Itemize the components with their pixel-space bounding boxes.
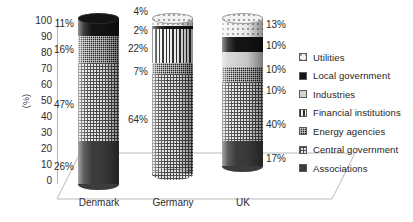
bar-denmark	[78, 18, 119, 184]
energy-agencies-swatch	[299, 127, 307, 135]
segment-germany-energy-agencies	[152, 63, 193, 74]
cylinder-base-germany	[152, 169, 193, 180]
cylinder-base-uk	[222, 161, 263, 172]
segment-uk-industries	[222, 52, 263, 67]
utilities-swatch	[299, 53, 307, 61]
legend-item-financial-institutions[interactable]: Financial institutions	[299, 104, 413, 123]
chart-legend: Utilities Local government Industries Fi…	[299, 48, 413, 178]
value-label-uk-industries: 10%	[266, 65, 296, 75]
value-label-germany-central-government: 64%	[118, 115, 148, 125]
y-axis-tick-labels: 100 90 80 70 60 50 40 30 20 10 0	[18, 0, 52, 222]
stacked-bar-chart: (%) 100 90 80 70 60 50 40 30 20 10 0 11%…	[0, 0, 413, 222]
local-government-swatch	[299, 72, 307, 80]
value-label-germany-utilities: 4%	[118, 7, 148, 17]
bar-germany	[152, 18, 193, 174]
value-label-uk-central-government: 40%	[266, 120, 296, 130]
segment-denmark-associations	[78, 141, 119, 184]
y-tick-70: 70	[18, 64, 52, 74]
segment-denmark-energy-agencies	[78, 36, 119, 63]
category-label-germany: Germany	[137, 197, 209, 208]
legend-item-associations[interactable]: Associations	[299, 159, 413, 178]
bar-uk	[222, 18, 263, 166]
legend-item-central-government[interactable]: Central government	[299, 141, 413, 160]
value-label-uk-associations: 17%	[266, 154, 296, 164]
y-tick-40: 40	[18, 112, 52, 122]
legend-item-utilities[interactable]: Utilities	[299, 48, 413, 67]
legend-item-energy-agencies[interactable]: Energy agencies	[299, 122, 413, 141]
value-label-uk-energy-agencies: 10%	[266, 86, 296, 96]
value-label-uk-utilities: 13%	[266, 20, 296, 30]
cylinder-cap-germany	[152, 13, 193, 24]
legend-label-central-government: Central government	[313, 144, 398, 155]
value-label-denmark-central-government: 47%	[44, 100, 74, 110]
central-government-swatch	[299, 146, 307, 154]
segment-germany-local-government	[152, 26, 193, 29]
value-label-germany-local-government: 2%	[118, 26, 148, 36]
value-label-germany-energy-agencies: 7%	[118, 67, 148, 77]
category-label-denmark: Denmark	[63, 197, 135, 208]
legend-label-industries: Industries	[313, 89, 355, 100]
segment-uk-energy-agencies	[222, 67, 263, 82]
cylinder-base-denmark	[78, 179, 119, 190]
legend-label-energy-agencies: Energy agencies	[313, 126, 385, 137]
legend-label-financial-institutions: Financial institutions	[313, 107, 401, 118]
y-tick-20: 20	[18, 144, 52, 154]
legend-label-utilities: Utilities	[313, 52, 345, 63]
value-label-germany-financial-institutions: 22%	[118, 44, 148, 54]
value-label-denmark-associations: 26%	[44, 162, 74, 172]
legend-label-local-government: Local government	[313, 70, 390, 81]
y-tick-60: 60	[18, 80, 52, 90]
financial-institutions-swatch	[299, 109, 307, 117]
industries-swatch	[299, 90, 307, 98]
y-tick-90: 90	[18, 32, 52, 42]
value-label-uk-local-government: 10%	[266, 41, 296, 51]
legend-item-industries[interactable]: Industries	[299, 85, 413, 104]
segment-denmark-central-government	[78, 63, 119, 141]
category-label-uk: UK	[207, 197, 279, 208]
segment-uk-central-government	[222, 82, 263, 141]
value-label-denmark-local-government: 11%	[44, 19, 74, 29]
segment-uk-local-government	[222, 37, 263, 52]
legend-label-associations: Associations	[313, 163, 368, 174]
cylinder-cap-uk	[222, 13, 263, 24]
segment-germany-central-government	[152, 74, 193, 174]
segment-germany-financial-institutions	[152, 29, 193, 63]
associations-swatch	[299, 164, 307, 172]
legend-item-local-government[interactable]: Local government	[299, 67, 413, 86]
y-tick-30: 30	[18, 128, 52, 138]
cylinder-cap-denmark	[78, 13, 119, 24]
y-tick-0: 0	[18, 176, 52, 186]
value-label-denmark-energy-agencies: 16%	[44, 45, 74, 55]
